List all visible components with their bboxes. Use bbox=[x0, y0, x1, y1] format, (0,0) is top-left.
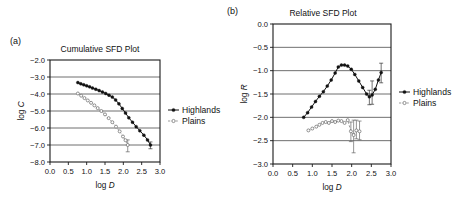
data-point-plains bbox=[115, 125, 118, 128]
x-tick-label: 0.0 bbox=[45, 167, 56, 176]
cumulative-sfd-chart: 0.00.51.01.52.02.53.0−2.0−3.0−4.0−5.0−6.… bbox=[0, 0, 230, 207]
data-point-highlands bbox=[365, 93, 368, 96]
y-tick-label: −4.0 bbox=[30, 90, 45, 99]
data-point-highlands bbox=[346, 65, 349, 68]
x-tick-label: 2.0 bbox=[118, 167, 129, 176]
data-point-highlands bbox=[350, 68, 353, 71]
data-point-highlands bbox=[368, 95, 371, 98]
y-axis-title: log C bbox=[17, 101, 26, 120]
data-point-highlands bbox=[302, 116, 305, 119]
data-point-plains bbox=[349, 130, 352, 133]
legend-label-plains: Plains bbox=[182, 116, 205, 126]
data-point-plains bbox=[318, 123, 321, 126]
data-point-plains bbox=[76, 92, 79, 95]
data-point-plains bbox=[121, 135, 124, 138]
data-point-highlands bbox=[310, 106, 313, 109]
relative-sfd-chart: 0.00.51.01.52.02.53.00.0−0.5−1.0−1.5−2.0… bbox=[215, 0, 460, 207]
chart-relative-svg: 0.00.51.01.52.02.53.00.0−0.5−1.0−1.5−2.0… bbox=[215, 0, 460, 207]
legend-marker-highlands bbox=[172, 108, 175, 111]
data-point-highlands bbox=[85, 84, 88, 87]
data-point-highlands bbox=[330, 79, 333, 82]
data-point-plains bbox=[124, 139, 127, 142]
x-tick-label: 2.0 bbox=[346, 169, 357, 178]
series-line-plains bbox=[78, 93, 128, 145]
y-tick-label: −6.0 bbox=[30, 124, 45, 133]
x-axis-title: log D bbox=[95, 181, 114, 190]
x-tick-label: 3.0 bbox=[155, 167, 166, 176]
x-tick-label: 2.5 bbox=[136, 167, 147, 176]
y-tick-label: −3.0 bbox=[30, 73, 45, 82]
data-point-plains bbox=[331, 120, 334, 123]
data-point-plains bbox=[80, 94, 83, 97]
legend: HighlandsPlains bbox=[168, 105, 220, 126]
data-point-highlands bbox=[142, 134, 145, 137]
data-point-highlands bbox=[334, 72, 337, 75]
y-tick-label: −8.0 bbox=[30, 158, 45, 167]
data-point-plains bbox=[311, 127, 314, 130]
y-tick-label: −1.0 bbox=[253, 66, 268, 75]
data-point-highlands bbox=[343, 64, 346, 67]
data-point-plains bbox=[327, 121, 330, 124]
data-point-highlands bbox=[322, 90, 325, 93]
data-point-plains bbox=[90, 101, 93, 104]
data-point-highlands bbox=[361, 86, 364, 89]
data-point-plains bbox=[324, 121, 327, 124]
data-point-highlands bbox=[131, 121, 134, 124]
legend: HighlandsPlains bbox=[399, 87, 451, 108]
data-point-plains bbox=[307, 129, 310, 132]
legend-label-plains: Plains bbox=[413, 98, 436, 108]
data-point-highlands bbox=[326, 85, 329, 88]
data-point-highlands bbox=[82, 83, 85, 86]
data-point-highlands bbox=[146, 138, 149, 141]
data-point-highlands bbox=[337, 65, 340, 68]
data-point-highlands bbox=[91, 87, 94, 90]
data-point-plains bbox=[352, 134, 355, 137]
legend-marker-plains bbox=[403, 101, 406, 104]
data-point-highlands bbox=[111, 96, 114, 99]
y-tick-label: −2.0 bbox=[253, 113, 268, 122]
data-point-plains bbox=[93, 104, 96, 107]
data-point-highlands bbox=[149, 144, 152, 147]
x-tick-label: 1.5 bbox=[100, 167, 111, 176]
data-point-highlands bbox=[108, 94, 111, 97]
x-axis-title: log D bbox=[322, 183, 341, 192]
data-point-highlands bbox=[94, 88, 97, 91]
legend-marker-highlands bbox=[403, 90, 406, 93]
x-tick-label: 0.0 bbox=[268, 169, 279, 178]
data-point-plains bbox=[343, 121, 346, 124]
data-point-plains bbox=[315, 125, 318, 128]
x-tick-label: 1.0 bbox=[307, 169, 318, 178]
data-point-highlands bbox=[374, 88, 377, 91]
data-point-plains bbox=[346, 119, 349, 122]
data-point-plains bbox=[358, 130, 361, 133]
y-tick-label: −5.0 bbox=[30, 107, 45, 116]
data-point-plains bbox=[355, 129, 358, 132]
data-point-highlands bbox=[104, 92, 107, 95]
data-point-plains bbox=[334, 121, 337, 124]
data-point-plains bbox=[100, 110, 103, 113]
panel-relative-sfd: (b) Relative SFD Plot 0.00.51.01.52.02.5… bbox=[215, 0, 460, 207]
data-point-plains bbox=[337, 119, 340, 122]
series-line-highlands bbox=[78, 83, 151, 145]
x-tick-label: 1.5 bbox=[327, 169, 338, 178]
data-point-highlands bbox=[127, 116, 130, 119]
data-point-highlands bbox=[314, 100, 317, 103]
data-point-highlands bbox=[380, 71, 383, 74]
data-point-highlands bbox=[306, 111, 309, 114]
data-point-highlands bbox=[353, 73, 356, 76]
data-point-highlands bbox=[98, 89, 101, 92]
data-point-highlands bbox=[135, 125, 138, 128]
data-point-plains bbox=[118, 130, 121, 133]
x-tick-label: 0.5 bbox=[287, 169, 298, 178]
y-tick-label: −1.5 bbox=[253, 90, 268, 99]
y-tick-label: −2.0 bbox=[30, 56, 45, 65]
data-point-highlands bbox=[318, 95, 321, 98]
y-axis-title: log R bbox=[240, 84, 249, 103]
data-point-highlands bbox=[371, 93, 374, 96]
data-point-highlands bbox=[138, 129, 141, 132]
data-point-plains bbox=[107, 117, 110, 120]
data-point-plains bbox=[83, 97, 86, 100]
data-point-highlands bbox=[357, 79, 360, 82]
legend-label-highlands: Highlands bbox=[413, 87, 451, 97]
data-point-highlands bbox=[117, 102, 120, 105]
